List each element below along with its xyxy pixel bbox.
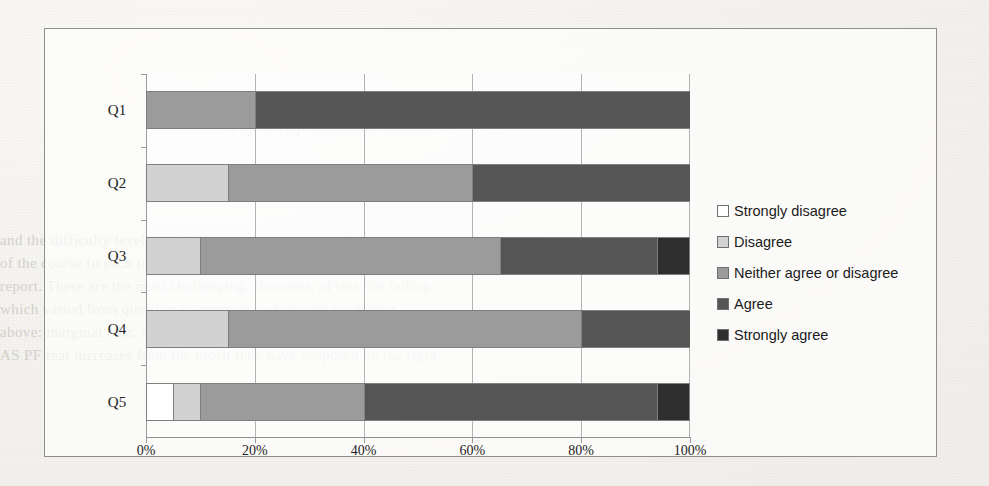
x-axis-label-40: 40% [351, 443, 377, 459]
bar-segment-q2-1 [146, 164, 228, 202]
x-axis-label-60: 60% [460, 443, 486, 459]
category-label-q4: Q4 [94, 320, 140, 337]
y-tick [141, 147, 146, 148]
legend-item-1: Disagree [717, 226, 947, 257]
bar-segment-q1-2 [146, 91, 255, 129]
legend-label-1: Disagree [734, 234, 792, 250]
legend-label-0: Strongly disagree [734, 203, 847, 219]
category-axis-labels: Q1Q2Q3Q4Q5 [92, 74, 140, 438]
legend-label-3: Agree [734, 296, 773, 312]
bar-segment-q3-2 [200, 237, 499, 275]
bar-segment-q5-1 [173, 383, 200, 421]
bar-segment-q5-3 [364, 383, 658, 421]
x-axis-label-100: 100% [674, 443, 707, 459]
chart-frame: Q1Q2Q3Q4Q5 0%20%40%60%80%100% Strongly d… [44, 28, 937, 457]
bar-segment-q4-1 [146, 310, 228, 348]
legend-item-4: Strongly agree [717, 319, 947, 350]
legend-swatch-icon-4 [717, 329, 729, 341]
value-axis-labels: 0%20%40%60%80%100% [146, 443, 690, 467]
category-label-q3: Q3 [94, 248, 140, 265]
y-tick [141, 74, 146, 75]
bar-q4 [146, 310, 690, 348]
legend-item-2: Neither agree or disagree [717, 257, 947, 288]
legend-swatch-icon-0 [717, 205, 729, 217]
y-tick [141, 292, 146, 293]
bar-q1 [146, 91, 690, 129]
bar-segment-q3-4 [657, 237, 690, 275]
bar-segment-q5-2 [200, 383, 363, 421]
x-axis-label-0: 0% [137, 443, 156, 459]
legend-label-2: Neither agree or disagree [734, 265, 898, 281]
category-label-q5: Q5 [94, 393, 140, 410]
bar-q5 [146, 383, 690, 421]
bar-segment-q2-3 [472, 164, 690, 202]
category-label-q2: Q2 [94, 175, 140, 192]
legend-item-0: Strongly disagree [717, 195, 947, 226]
bar-segment-q3-1 [146, 237, 200, 275]
bar-segment-q5-0 [146, 383, 173, 421]
bar-segment-q1-3 [255, 91, 690, 129]
x-axis-label-80: 80% [568, 443, 594, 459]
legend-swatch-icon-1 [717, 236, 729, 248]
bar-segment-q3-3 [500, 237, 658, 275]
y-tick [141, 365, 146, 366]
legend-item-3: Agree [717, 288, 947, 319]
legend-swatch-icon-3 [717, 298, 729, 310]
plot-area [146, 74, 690, 438]
category-label-q1: Q1 [94, 102, 140, 119]
bar-segment-q5-4 [657, 383, 690, 421]
bar-segment-q4-3 [581, 310, 690, 348]
bar-q3 [146, 237, 690, 275]
x-axis-label-20: 20% [242, 443, 268, 459]
bar-segment-q4-2 [228, 310, 582, 348]
y-tick [141, 220, 146, 221]
x-axis-line [146, 437, 690, 438]
legend-label-4: Strongly agree [734, 327, 828, 343]
chart-legend: Strongly disagreeDisagreeNeither agree o… [717, 195, 947, 350]
legend-swatch-icon-2 [717, 267, 729, 279]
bar-q2 [146, 164, 690, 202]
bar-segment-q2-2 [228, 164, 473, 202]
